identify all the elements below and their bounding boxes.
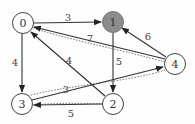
weight-3-4: 3 [63, 84, 69, 95]
node-3-label: 3 [19, 98, 26, 111]
node-3: 3 [12, 94, 33, 115]
node-4: 4 [165, 54, 186, 75]
edge-2-3 [34, 104, 102, 105]
node-1-label: 1 [110, 16, 117, 29]
weight-0-3: 4 [12, 57, 18, 68]
node-0: 0 [13, 13, 34, 34]
node-1: 1 [103, 12, 124, 33]
weight-4-1: 6 [145, 31, 151, 42]
weight-1-2: 5 [116, 56, 122, 67]
weight-0-1: 3 [65, 12, 71, 23]
weight-4-0: 7 [87, 33, 93, 44]
node-2-label: 2 [110, 98, 117, 111]
weight-2-3: 5 [68, 108, 74, 119]
graph-diagram: 3 4 5 4 7 6 3 5 0 1 2 3 4 [0, 0, 195, 124]
node-0-label: 0 [20, 17, 27, 30]
weight-2-0: 4 [66, 55, 72, 66]
edge-3-4 [32, 67, 163, 100]
node-4-label: 4 [172, 58, 179, 71]
node-2: 2 [103, 94, 124, 115]
dotted-edge-3-4 [28, 70, 165, 96]
